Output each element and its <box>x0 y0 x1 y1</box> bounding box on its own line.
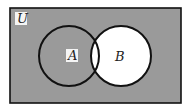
set-a-label: A <box>67 48 77 63</box>
set-b-label: B <box>114 49 125 64</box>
universe-label: U <box>17 11 29 26</box>
venn-diagram: U A B <box>0 0 190 110</box>
